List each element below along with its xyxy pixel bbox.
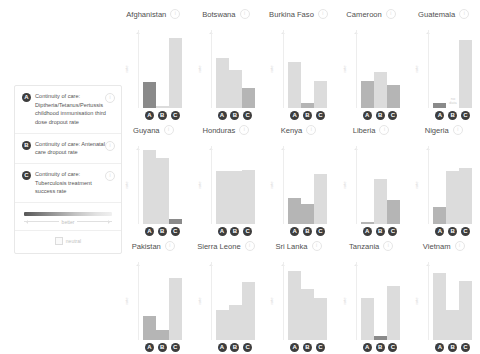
bar-badge-c[interactable]: C (243, 227, 252, 236)
bar-b[interactable] (374, 336, 387, 340)
info-icon[interactable]: i (240, 9, 250, 19)
bar-badge-a[interactable]: A (218, 111, 227, 120)
bar-a[interactable] (361, 222, 374, 224)
bar-a[interactable] (288, 271, 301, 340)
bar-b[interactable] (156, 158, 169, 224)
bar-badge-b[interactable]: B (230, 343, 239, 352)
legend-item-c[interactable]: CContinuity of care: Tuberculosis treatm… (15, 164, 121, 203)
bar-c[interactable] (387, 200, 400, 224)
bar-b[interactable] (156, 330, 169, 340)
bar-b[interactable] (446, 171, 459, 224)
bar-badge-c[interactable]: C (171, 343, 180, 352)
bar-c[interactable] (314, 81, 327, 108)
bar-c[interactable] (242, 170, 255, 224)
info-icon[interactable]: i (318, 9, 328, 19)
bar-a[interactable] (361, 81, 374, 108)
bar-a[interactable] (361, 298, 374, 340)
bar-b[interactable] (229, 171, 242, 224)
bar-c[interactable] (387, 286, 400, 340)
info-icon[interactable]: i (455, 241, 465, 251)
bar-badge-a[interactable]: A (435, 343, 444, 352)
bar-badge-c[interactable]: C (461, 111, 470, 120)
bar-badge-b[interactable]: B (230, 111, 239, 120)
bar-a[interactable] (216, 58, 229, 108)
bar-a[interactable] (433, 103, 446, 108)
bar-badge-b[interactable]: B (376, 227, 385, 236)
bar-a[interactable] (288, 198, 301, 224)
bar-badge-a[interactable]: A (145, 111, 154, 120)
bar-badge-b[interactable]: B (448, 343, 457, 352)
bar-badge-b[interactable]: B (158, 227, 167, 236)
bar-a[interactable] (143, 150, 156, 224)
bar-badge-b[interactable]: B (158, 343, 167, 352)
bar-c[interactable] (387, 85, 400, 108)
bar-badge-b[interactable]: B (303, 227, 312, 236)
legend-item-a[interactable]: AContinuity of care: Diptheria/Tetanus/P… (15, 86, 121, 134)
bar-badge-c[interactable]: C (461, 227, 470, 236)
bar-badge-b[interactable]: B (448, 227, 457, 236)
bar-badge-b[interactable]: B (230, 227, 239, 236)
bar-badge-b[interactable]: B (303, 111, 312, 120)
bar-b[interactable] (301, 204, 314, 224)
bar-b[interactable] (374, 72, 387, 108)
bar-badge-a[interactable]: A (145, 343, 154, 352)
bar-badge-a[interactable]: A (290, 111, 299, 120)
bar-badge-c[interactable]: C (388, 111, 397, 120)
bar-b[interactable] (229, 305, 242, 340)
bar-a[interactable] (143, 316, 156, 340)
bar-badge-b[interactable]: B (158, 111, 167, 120)
bar-badge-a[interactable]: A (290, 227, 299, 236)
bar-b[interactable] (301, 103, 314, 108)
bar-c[interactable] (242, 88, 255, 108)
bar-c[interactable] (314, 298, 327, 340)
bar-badge-c[interactable]: C (316, 343, 325, 352)
bar-badge-a[interactable]: A (290, 343, 299, 352)
bar-a[interactable] (216, 310, 229, 340)
bar-badge-c[interactable]: C (388, 343, 397, 352)
bar-a[interactable] (288, 62, 301, 108)
info-icon[interactable]: i (170, 9, 180, 19)
info-icon[interactable]: i (105, 141, 115, 151)
bar-b[interactable] (301, 289, 314, 340)
info-icon[interactable]: i (306, 125, 316, 135)
bar-badge-c[interactable]: C (171, 111, 180, 120)
bar-a[interactable] (433, 273, 446, 340)
bar-c[interactable] (169, 38, 182, 108)
info-icon[interactable]: i (165, 241, 175, 251)
bar-badge-c[interactable]: C (243, 111, 252, 120)
bar-a[interactable] (143, 82, 156, 108)
bar-badge-c[interactable]: C (316, 111, 325, 120)
bar-c[interactable] (169, 219, 182, 224)
info-icon[interactable]: i (105, 93, 115, 103)
info-icon[interactable]: i (383, 241, 393, 251)
bar-badge-a[interactable]: A (218, 227, 227, 236)
legend-item-b[interactable]: BContinuity of care: Antenatal care drop… (15, 134, 121, 164)
bar-a[interactable] (433, 207, 446, 224)
bar-badge-b[interactable]: B (376, 111, 385, 120)
bar-b[interactable] (229, 70, 242, 108)
bar-c[interactable] (314, 174, 327, 224)
bar-badge-a[interactable]: A (145, 227, 154, 236)
info-icon[interactable]: i (453, 125, 463, 135)
bar-badge-b[interactable]: B (376, 343, 385, 352)
bar-badge-a[interactable]: A (435, 111, 444, 120)
bar-c[interactable] (169, 278, 182, 340)
bar-a[interactable] (216, 171, 229, 224)
bar-c[interactable] (459, 168, 472, 224)
bar-b[interactable] (446, 310, 459, 340)
bar-c[interactable] (242, 282, 255, 340)
info-icon[interactable]: i (164, 125, 174, 135)
bar-c[interactable] (459, 40, 472, 108)
info-icon[interactable]: i (245, 241, 255, 251)
bar-badge-a[interactable]: A (363, 227, 372, 236)
bar-c[interactable] (459, 281, 472, 340)
bar-badge-c[interactable]: C (243, 343, 252, 352)
bar-badge-c[interactable]: C (171, 227, 180, 236)
bar-badge-b[interactable]: B (448, 111, 457, 120)
bar-badge-a[interactable]: A (435, 227, 444, 236)
bar-badge-c[interactable]: C (316, 227, 325, 236)
info-icon[interactable]: i (386, 9, 396, 19)
info-icon[interactable]: i (105, 171, 115, 181)
bar-badge-a[interactable]: A (363, 111, 372, 120)
bar-b[interactable] (156, 106, 169, 108)
